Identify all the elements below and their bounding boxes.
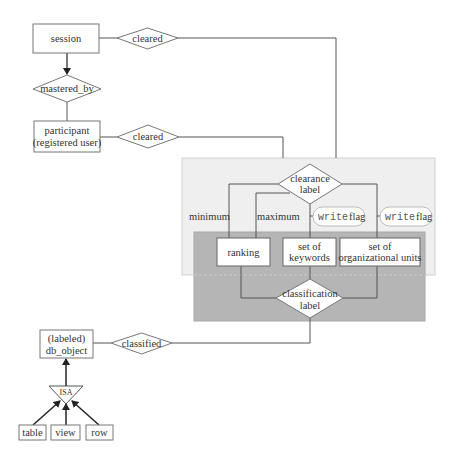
participant-cleared-label: cleared <box>133 131 164 142</box>
ranking-label: ranking <box>227 247 260 258</box>
keywords-label-line1: set of <box>298 241 322 252</box>
entity-row[interactable]: row <box>86 425 113 440</box>
view-label: view <box>55 427 76 438</box>
keywords-label-line2: keywords <box>289 252 330 263</box>
entity-view[interactable]: view <box>51 425 80 440</box>
session-label: session <box>51 33 82 44</box>
write-flag-2-code: write <box>385 212 415 223</box>
write-flag-orgunits: write flag <box>380 207 433 226</box>
relationship-session-cleared[interactable]: cleared <box>117 28 178 49</box>
dbobject-label-line1: (labeled) <box>48 333 86 345</box>
classified-label: classified <box>122 338 162 349</box>
table-isa-arrow <box>33 401 60 425</box>
row-label: row <box>91 427 108 438</box>
orgunits-label-line1: set of <box>368 241 392 252</box>
orgunits-label-line2: organizational units <box>339 252 422 263</box>
dbobject-label-line2: db_object <box>46 345 87 356</box>
participant-label-line1: participant <box>45 125 90 136</box>
entity-table[interactable]: table <box>19 425 46 440</box>
participant-label-line2: (registered user) <box>33 137 102 149</box>
entity-participant[interactable]: participant (registered user) <box>33 121 102 152</box>
session-cleared-label: cleared <box>132 33 163 44</box>
entity-keywords[interactable]: set of keywords <box>283 238 336 266</box>
relationship-participant-cleared[interactable]: cleared <box>117 125 179 148</box>
entity-db-object[interactable]: (labeled) db_object <box>40 330 93 358</box>
write-flag-keywords: write flag <box>313 207 366 226</box>
entity-session[interactable]: session <box>33 24 99 53</box>
mastered-by-label: mastered_by <box>40 83 94 94</box>
entity-organizational-units[interactable]: set of organizational units <box>339 238 422 266</box>
row-isa-arrow <box>72 401 99 425</box>
classification-label-line1: classification <box>282 288 338 299</box>
write-flag-1-code: write <box>318 212 348 223</box>
classification-label-line2: label <box>300 300 320 311</box>
er-diagram-canvas: session cleared mastered_by participant … <box>0 0 458 464</box>
clearance-label-line1: clearance <box>290 173 330 184</box>
minimum-edge-label: minimum <box>189 211 230 222</box>
write-flag-1-text: flag <box>349 211 366 222</box>
relationship-mastered-by[interactable]: mastered_by <box>33 75 101 102</box>
table-label: table <box>22 427 43 438</box>
write-flag-2-text: flag <box>416 211 433 222</box>
relationship-classified[interactable]: classified <box>111 333 172 354</box>
isa-label: ISA <box>60 388 73 397</box>
isa-triangle[interactable]: ISA <box>49 386 83 404</box>
entity-ranking[interactable]: ranking <box>217 238 270 266</box>
maximum-edge-label: maximum <box>257 211 300 222</box>
clearance-label-line2: label <box>300 184 320 195</box>
